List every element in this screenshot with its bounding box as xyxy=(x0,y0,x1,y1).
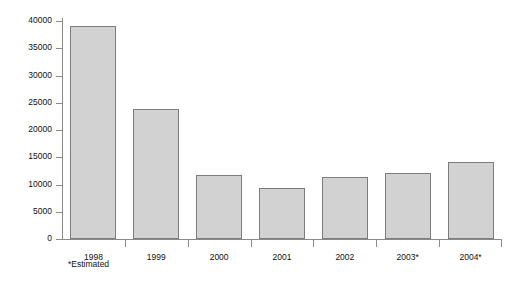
y-axis-tick-label: 35000 xyxy=(28,42,52,53)
y-axis-tick: 25000 xyxy=(56,103,62,104)
y-axis-tick: 40000 xyxy=(56,21,62,22)
x-axis-tick xyxy=(376,240,377,247)
x-axis-tick xyxy=(188,240,189,247)
bar xyxy=(70,26,116,239)
y-axis-tick: 0 xyxy=(56,239,62,240)
y-axis-tick: 15000 xyxy=(56,157,62,158)
bar xyxy=(196,175,242,239)
x-axis-tick-label: 2003* xyxy=(376,252,439,263)
x-axis-tick xyxy=(439,240,440,247)
y-axis-tick-label: 5000 xyxy=(33,206,52,217)
x-axis-tick-label: 2001 xyxy=(251,252,314,263)
x-axis-tick xyxy=(313,240,314,247)
x-axis-tick-label: 2002 xyxy=(313,252,376,263)
y-axis-tick: 5000 xyxy=(56,212,62,213)
y-axis-tick-label: 20000 xyxy=(28,124,52,135)
y-axis-tick: 35000 xyxy=(56,48,62,49)
x-axis-tick-label: 1999 xyxy=(125,252,188,263)
y-axis-tick-label: 40000 xyxy=(28,15,52,26)
plot-area: 0500010000150002000025000300003500040000… xyxy=(62,18,502,240)
y-axis-tick-label: 10000 xyxy=(28,179,52,190)
bar xyxy=(448,162,494,239)
footnote-estimated: *Estimated xyxy=(68,259,109,269)
bar xyxy=(259,188,305,239)
x-axis-tick xyxy=(251,240,252,247)
y-axis-tick-label: 30000 xyxy=(28,70,52,81)
y-axis-tick: 20000 xyxy=(56,130,62,131)
y-axis-tick: 10000 xyxy=(56,185,62,186)
y-axis-line xyxy=(62,18,63,240)
x-axis-line xyxy=(62,239,502,240)
y-axis-tick-label: 25000 xyxy=(28,97,52,108)
y-axis-tick: 30000 xyxy=(56,76,62,77)
bar-chart: US $ million 050001000015000200002500030… xyxy=(0,0,514,288)
x-axis-tick-label: 2004* xyxy=(439,252,502,263)
bar xyxy=(322,177,368,239)
x-axis-tick xyxy=(501,240,502,247)
bar xyxy=(133,109,179,239)
x-axis-tick-label: 2000 xyxy=(188,252,251,263)
x-axis-tick xyxy=(125,240,126,247)
y-axis-tick-label: 15000 xyxy=(28,151,52,162)
bar xyxy=(385,173,431,239)
y-axis-tick-label: 0 xyxy=(47,233,52,244)
